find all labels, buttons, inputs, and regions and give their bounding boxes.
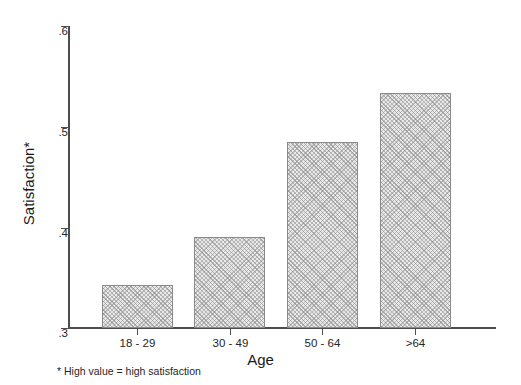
x-tick-label-50-64: 50 - 64: [272, 338, 373, 350]
bar-30-49: [194, 237, 265, 328]
bar-over-64: [380, 93, 451, 328]
bar-18-29: [102, 285, 173, 328]
y-tick-label: .6: [38, 26, 68, 38]
x-tick-mark: [230, 329, 231, 335]
y-tick-mark: [61, 228, 68, 229]
bar-chart: .6 .5 .4 .3 18 - 29 30 - 49 50 - 64 >64 …: [0, 0, 521, 385]
chart-footnote: * High value = high satisfaction: [57, 366, 201, 377]
x-tick-label-over-64: >64: [365, 338, 466, 350]
y-tick-mark: [61, 127, 68, 128]
y-tick-mark: [61, 328, 68, 329]
y-tick-label: .3: [38, 328, 68, 340]
bar-50-64: [287, 142, 358, 328]
x-tick-mark: [415, 329, 416, 335]
y-axis-line: [68, 26, 70, 329]
y-axis-title: Satisfaction*: [21, 94, 36, 274]
x-tick-label-18-29: 18 - 29: [87, 338, 188, 350]
y-tick-label: .4: [38, 228, 68, 240]
y-tick-mark: [61, 26, 68, 27]
x-tick-mark: [322, 329, 323, 335]
x-tick-mark: [137, 329, 138, 335]
y-tick-label: .5: [38, 127, 68, 139]
x-tick-label-30-49: 30 - 49: [180, 338, 281, 350]
